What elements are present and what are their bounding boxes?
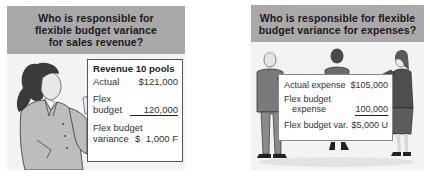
row-label: Actual <box>93 76 119 87</box>
banner-line: Who is responsible for <box>35 12 157 24</box>
row-label: Flex budget <box>284 94 331 105</box>
flex-budget-label-row: Flex <box>93 93 178 104</box>
row-label: expense <box>284 104 326 116</box>
row-label: Flex <box>93 93 111 104</box>
banner-line: flexible budget variance <box>35 24 157 36</box>
flex-budget-var-row: Flex budget var. $5,000 U <box>284 120 388 131</box>
row-label: budget <box>93 104 122 116</box>
revenue-card: Revenue 10 pools Actual $121,000 Flex bu… <box>87 59 183 162</box>
expense-question-banner: Who is responsible for flexible budget v… <box>251 5 424 42</box>
woman-presenter-illustration <box>7 54 97 170</box>
flex-variance-row: variance $ 1,000 F <box>93 133 178 144</box>
actual-revenue-row: Actual $121,000 <box>93 76 178 87</box>
row-value: $121,000 <box>138 76 178 87</box>
row-value: 1,000 F <box>146 133 178 144</box>
actual-expense-row: Actual expense $105,000 <box>284 80 388 91</box>
row-value: 100,000 <box>355 104 388 116</box>
row-label: Actual expense <box>284 80 346 91</box>
banner-line: budget variance for expenses? <box>259 24 417 36</box>
expense-sign: Actual expense $105,000 Flex budget expe… <box>278 74 393 141</box>
currency-symbol: $ <box>135 133 140 144</box>
flex-variance-label-row: Flex budget <box>93 122 178 133</box>
row-label: variance <box>93 133 129 144</box>
revenue-card-title: Revenue 10 pools <box>93 63 178 74</box>
flex-budget-expense-row: expense 100,000 <box>284 104 388 116</box>
row-value: $105,000 <box>350 80 388 91</box>
row-value: $5,000 U <box>351 120 388 131</box>
revenue-question-banner: Who is responsible for flexible budget v… <box>7 6 185 54</box>
row-label: Flex budget var. <box>284 120 348 131</box>
row-label: Flex budget <box>93 122 143 133</box>
flex-budget-row: budget 120,000 <box>93 104 178 116</box>
banner-line: Who is responsible for flexible <box>259 12 417 24</box>
banner-line: for sales revenue? <box>35 36 157 48</box>
row-value: 120,000 <box>130 104 178 116</box>
flex-budget-expense-label-row: Flex budget <box>284 94 388 105</box>
